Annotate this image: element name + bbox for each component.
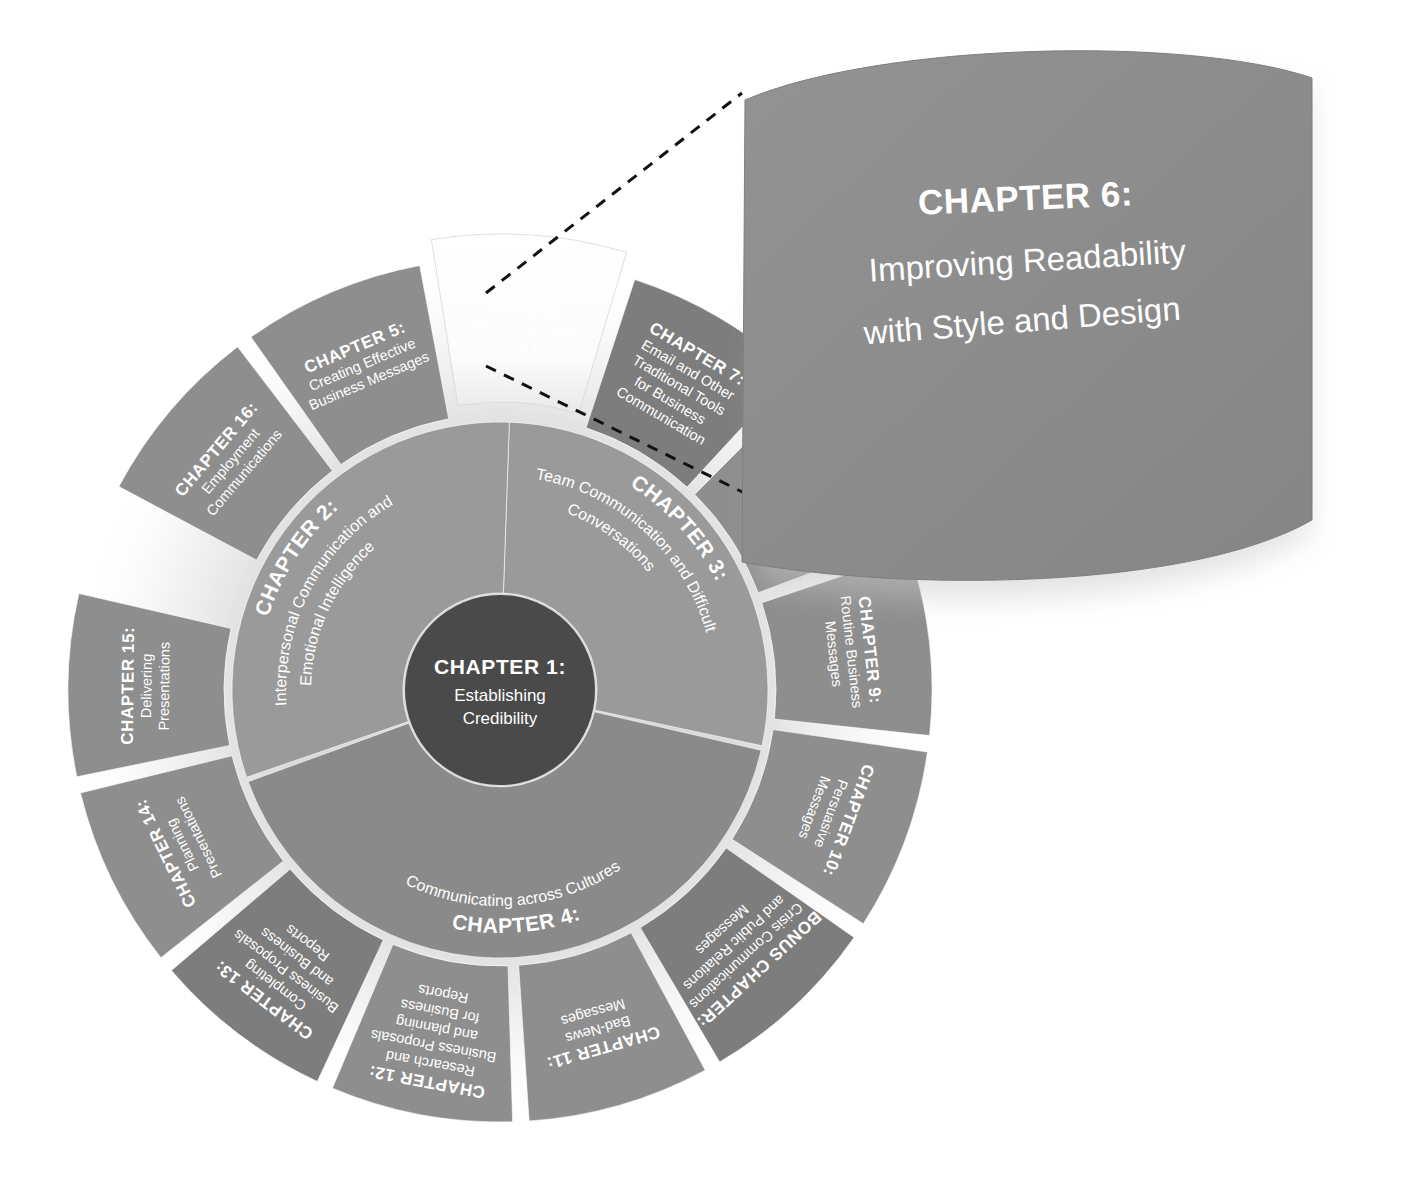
hub-title-line: Credibility (463, 709, 538, 728)
hub-chapter-number: CHAPTER 1: (434, 655, 566, 678)
callout-panel-chapter-6: CHAPTER 6:Improving Readabilitywith Styl… (742, 51, 1312, 599)
chapter-title-line: Presentations (156, 642, 173, 731)
hub-chapter-1: CHAPTER 1:EstablishingCredibility (405, 595, 595, 785)
chapter-wheel-figure: CHAPTER 16:EmploymentCommunicationsCHAPT… (0, 0, 1409, 1192)
chapter-title-line: Delivering (138, 654, 155, 719)
hub-title-line: Establishing (454, 686, 546, 705)
wheel-svg: CHAPTER 16:EmploymentCommunicationsCHAPT… (0, 0, 1409, 1192)
chapter-number: CHAPTER 15: (118, 627, 138, 745)
